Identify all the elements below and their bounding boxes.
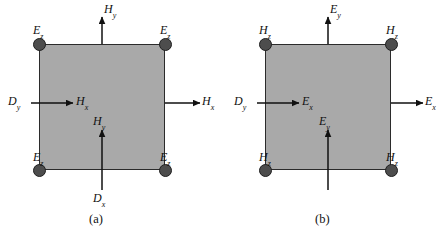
label-corner-top-left-a: Ez [33,24,43,36]
label-subscript: z [395,159,398,168]
label-symbol: H [259,23,268,37]
panel-b: Hz Hz Hz Hz Ey Dy Ex Ex Ey (b) [219,0,438,234]
label-subscript: y [17,103,21,112]
figure-root: Ez Ez Ez Ez Hy Dy Hx Hx Hy Dx (a) [0,0,438,234]
caption-panel-b: (b) [315,212,330,227]
label-subscript: x [309,103,313,112]
caption-panel-a: (a) [89,212,103,227]
label-symbol: H [386,150,395,164]
label-subscript: y [102,123,106,132]
node-bottom-left-a [33,164,46,177]
label-symbol: H [386,23,395,37]
label-corner-bottom-right-b: Hz [386,151,398,163]
label-interior-y-field-a: Hy [93,115,105,127]
label-interior-x-field-b: Ex [302,95,313,107]
label-subscript: x [432,103,436,112]
panel-a: Ez Ez Ez Ez Hy Dy Hx Hx Hy Dx (a) [0,0,219,234]
label-top-field-a: Hy [104,3,116,15]
label-subscript: x [102,200,106,209]
label-corner-bottom-right-a: Ez [160,151,170,163]
label-corner-top-right-b: Hz [386,24,398,36]
label-subscript: x [85,103,89,112]
label-symbol: H [202,94,211,108]
label-symbol: D [234,94,243,108]
label-symbol: H [93,114,102,128]
label-subscript: x [211,103,215,112]
label-symbol: H [259,150,268,164]
label-symbol: H [76,94,85,108]
label-top-field-b: Ey [330,3,341,15]
label-corner-bottom-left-a: Ez [33,151,43,163]
label-interior-y-field-b: Ey [319,115,330,127]
label-right-field-a: Hx [202,95,214,107]
label-subscript: z [268,32,271,41]
label-symbol: D [8,94,17,108]
label-corner-top-right-a: Ez [160,24,170,36]
label-bottom-field-a: Dx [93,192,105,204]
label-interior-x-field-a: Hx [76,95,88,107]
label-subscript: y [113,11,117,20]
label-subscript: y [337,11,341,20]
label-symbol: D [93,191,102,205]
label-left-field-b: Dy [234,95,246,107]
node-top-left-a [33,38,46,51]
label-subscript: y [326,123,330,132]
label-subscript: z [395,32,398,41]
label-corner-top-left-b: Hz [259,24,271,36]
label-symbol: H [104,2,113,16]
label-right-field-b: Ex [425,95,436,107]
label-corner-bottom-left-b: Hz [259,151,271,163]
label-subscript: y [243,103,247,112]
label-left-field-a: Dy [8,95,20,107]
label-subscript: z [268,159,271,168]
